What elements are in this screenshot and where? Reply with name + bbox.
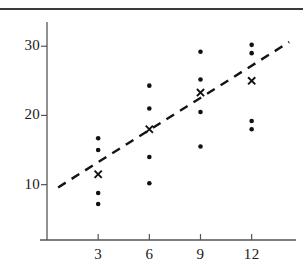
trend-line (58, 42, 289, 187)
data-point-dot (96, 148, 101, 153)
y-tick-label: 20 (4, 106, 40, 123)
data-points-group (96, 43, 254, 207)
y-tick-label: 30 (4, 37, 40, 54)
y-tick-label: 10 (4, 176, 40, 193)
group-mean-cross-marker (248, 77, 255, 84)
group-mean-cross-marker (146, 126, 153, 133)
data-point-dot (198, 77, 203, 82)
group-mean-cross-marker (197, 89, 204, 96)
y-tick-marks (41, 46, 47, 184)
data-point-dot (198, 110, 203, 115)
plot-canvas (0, 0, 303, 271)
trend-line-group (58, 42, 289, 187)
data-point-dot (96, 191, 101, 196)
data-point-dot (249, 127, 254, 132)
scatter-plot-figure: 102030 36912 (0, 0, 303, 271)
data-point-dot (147, 181, 152, 186)
data-point-dot (249, 43, 254, 48)
x-tick-label: 3 (78, 246, 118, 263)
data-point-dot (198, 144, 203, 149)
data-point-dot (147, 83, 152, 88)
x-tick-label: 9 (180, 246, 220, 263)
data-point-dot (147, 106, 152, 111)
data-point-dot (96, 136, 101, 141)
data-point-dot (147, 155, 152, 160)
data-point-dot (249, 119, 254, 124)
data-point-dot (249, 51, 254, 56)
x-tick-label: 6 (129, 246, 169, 263)
data-point-dot (96, 202, 101, 207)
data-point-dot (198, 49, 203, 54)
x-tick-label: 12 (232, 246, 272, 263)
group-mean-cross-marker (95, 171, 102, 178)
mean-markers-group (95, 77, 256, 178)
x-tick-marks (98, 234, 251, 240)
axis-group (40, 22, 296, 240)
